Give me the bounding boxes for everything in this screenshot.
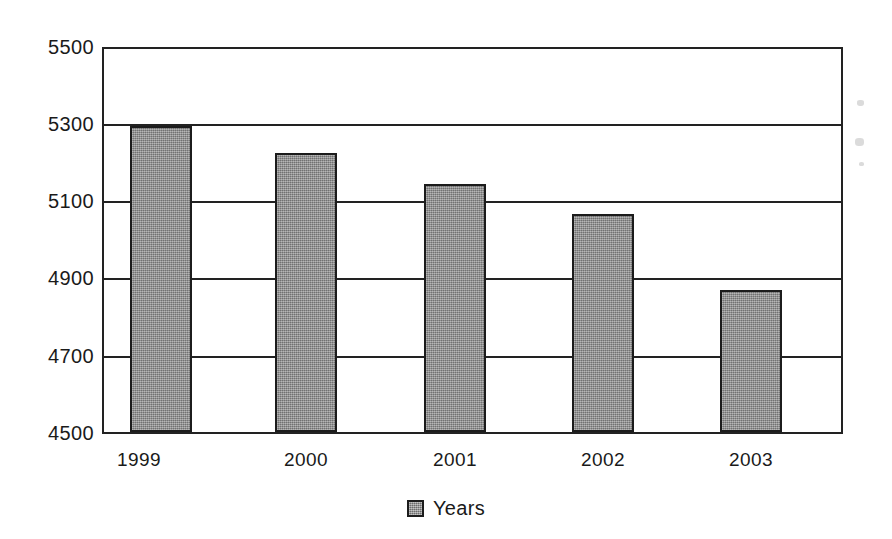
legend-label-years: Years [433, 498, 485, 518]
bar-1999 [130, 126, 192, 432]
bar-2000 [275, 153, 337, 432]
y-tick-label-5500: 5500 [2, 37, 94, 57]
x-tick-label-2000: 2000 [246, 449, 366, 471]
x-tick-label-2002: 2002 [543, 449, 663, 471]
gridline-5300 [104, 124, 841, 126]
scan-speckle [857, 100, 864, 106]
y-tick-label-4500: 4500 [2, 423, 94, 443]
bar-chart-figure: 5500 5300 5100 4900 4700 4500 1999 2000 … [0, 0, 892, 539]
legend: Years [0, 498, 892, 518]
y-tick-label-4700: 4700 [2, 346, 94, 366]
bar-2001 [424, 184, 486, 432]
scan-speckle [859, 162, 864, 166]
x-tick-label-1999: 1999 [79, 449, 199, 471]
scan-speckle [855, 138, 864, 146]
y-tick-label-5300: 5300 [2, 114, 94, 134]
bar-2002 [572, 214, 634, 432]
y-tick-label-5100: 5100 [2, 191, 94, 211]
plot-area [102, 47, 843, 434]
bar-2003 [720, 290, 782, 432]
legend-swatch-years [407, 500, 424, 517]
x-tick-label-2003: 2003 [691, 449, 811, 471]
y-tick-label-4900: 4900 [2, 268, 94, 288]
x-tick-label-2001: 2001 [395, 449, 515, 471]
